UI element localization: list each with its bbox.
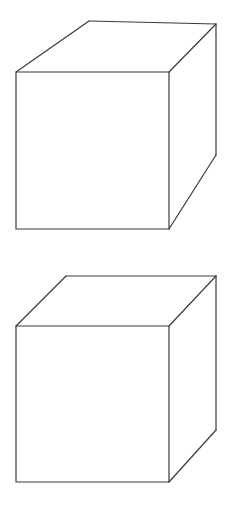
cube-top [16, 21, 216, 229]
page-root [0, 0, 244, 513]
cube-top-face-front [16, 72, 169, 229]
cube-illustration-canvas [0, 0, 244, 513]
cube-bottom [16, 276, 216, 482]
cube-bottom-face-front [16, 326, 169, 482]
